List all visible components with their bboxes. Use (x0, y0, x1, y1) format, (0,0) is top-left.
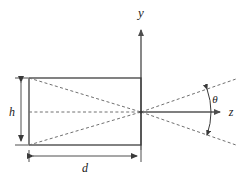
converging-rays-group (29, 78, 141, 145)
z-axis-label: z (228, 105, 234, 119)
ray-focus-to-upper-right (141, 79, 236, 112)
height-dimension-label: h (9, 105, 15, 119)
depth-dimension-label: d (82, 161, 89, 175)
focal-point-marker (140, 111, 143, 114)
ray-focus-to-lower-right (141, 112, 236, 145)
ray-top-left-to-focus (29, 78, 141, 112)
depth-dimension-group: d (29, 150, 141, 175)
diagram-canvas: y z θ h (0, 0, 244, 176)
geometry-diagram: y z θ h (0, 0, 244, 176)
height-dimension-group: h (9, 78, 28, 145)
z-axis-group: z (141, 105, 234, 119)
theta-label: θ (212, 93, 218, 105)
ray-bottom-left-to-focus (29, 112, 141, 145)
y-axis-label: y (136, 5, 144, 20)
